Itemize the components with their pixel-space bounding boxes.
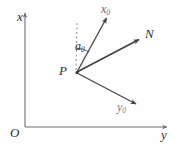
point-label-p: P <box>59 64 67 77</box>
origin-label-o: O <box>10 126 19 139</box>
axis-label-y: y <box>161 128 167 141</box>
ray-label-x0: x0 <box>101 3 110 17</box>
angle-label-alpha0: a0 <box>75 40 85 54</box>
diagram-canvas <box>0 0 180 148</box>
ray-label-x0-subscript: 0 <box>106 8 110 17</box>
vertex-dot-p <box>75 71 78 74</box>
axis-label-x: x <box>17 10 23 23</box>
coordinate-diagram-figure: x y O P x0 N y0 a0 <box>0 0 180 148</box>
ray-group <box>77 18 139 104</box>
ray-label-n: N <box>145 27 154 40</box>
ray-label-y0-subscript: 0 <box>122 106 126 115</box>
ray-to-y0 <box>77 73 136 104</box>
angle-label-subscript: 0 <box>81 45 85 54</box>
ray-label-y0: y0 <box>117 101 126 115</box>
